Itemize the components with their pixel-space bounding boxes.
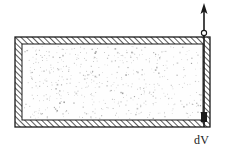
rod-collar-icon bbox=[201, 30, 206, 35]
thermodynamics-figure: dV bbox=[0, 0, 225, 155]
dv-label-text: dV bbox=[194, 133, 209, 147]
dv-label: dV bbox=[194, 133, 209, 148]
figure-canvas bbox=[0, 0, 225, 155]
piston-head-block bbox=[201, 112, 207, 122]
vessel-walls bbox=[15, 37, 210, 127]
